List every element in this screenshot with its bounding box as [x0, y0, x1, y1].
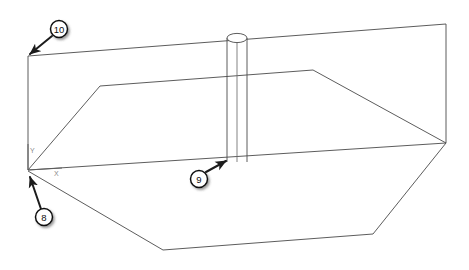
- cad-wireframe-svg: Y X 10 9 8: [0, 0, 469, 270]
- diagram-canvas: Y X 10 9 8: [0, 0, 469, 270]
- inner-prism-lower-bottom-edge: [163, 234, 373, 250]
- callout-10-number: 10: [54, 24, 65, 35]
- vertical-column: [227, 33, 247, 162]
- coordinate-axes: Y X: [28, 144, 62, 177]
- callout-8[interactable]: 8: [30, 177, 53, 226]
- y-axis-label: Y: [30, 147, 35, 154]
- inner-prism-lower-right-slope: [373, 143, 446, 234]
- callout-10-leader-line: [30, 36, 52, 54]
- callout-9[interactable]: 9: [191, 161, 227, 188]
- callout-9-leader-line: [206, 161, 226, 172]
- x-axis-label: X: [54, 170, 59, 177]
- column-top-ellipse: [227, 33, 247, 42]
- inner-prism-right-slope: [313, 70, 446, 143]
- callout-10[interactable]: 10: [30, 21, 68, 55]
- callout-9-number: 9: [196, 174, 201, 185]
- callout-8-number: 8: [41, 212, 46, 223]
- callout-8-leader-line: [30, 177, 41, 209]
- inner-prism-left-slope: [28, 86, 100, 170]
- inner-prism-top-edge: [100, 70, 313, 86]
